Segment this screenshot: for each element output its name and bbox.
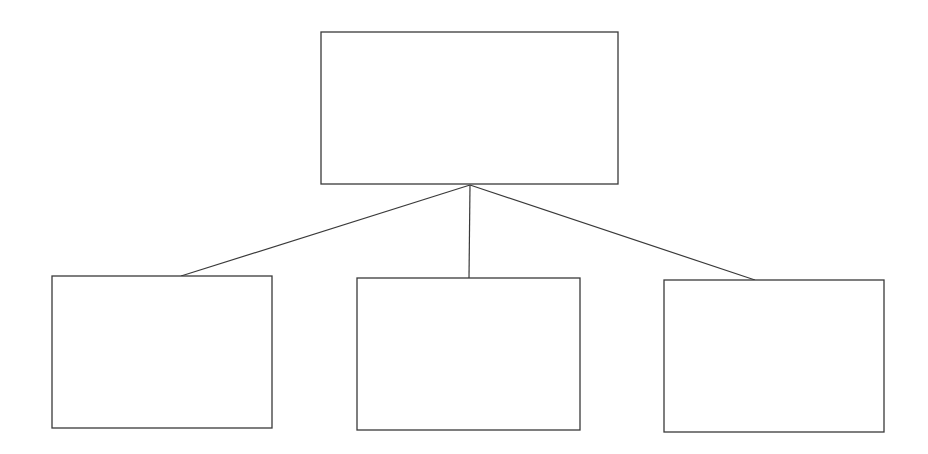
node-child-right [664, 280, 884, 432]
node-root [321, 32, 618, 184]
node-box [321, 32, 618, 184]
node-child-middle [357, 278, 580, 430]
node-box [52, 276, 272, 428]
node-box [357, 278, 580, 430]
hierarchy-diagram [0, 0, 928, 454]
connector-child-right [470, 185, 755, 280]
connector-child-left [181, 185, 470, 276]
diagram-nodes [52, 32, 884, 432]
node-box [664, 280, 884, 432]
connector-lines [181, 185, 755, 280]
node-child-left [52, 276, 272, 428]
connector-child-middle [469, 185, 470, 278]
